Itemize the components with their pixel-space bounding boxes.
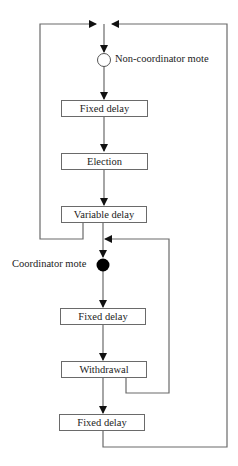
non-coordinator-node-icon bbox=[98, 54, 111, 67]
fixed-delay-3-box: Fixed delay bbox=[59, 414, 145, 431]
loop-final-to-top bbox=[103, 24, 227, 447]
coordinator-label: Coordinator mote bbox=[12, 258, 86, 269]
fixed-delay-1-box: Fixed delay bbox=[61, 100, 148, 117]
election-box: Election bbox=[61, 153, 148, 170]
non-coordinator-label: Non-coordinator mote bbox=[115, 53, 209, 64]
withdrawal-box: Withdrawal bbox=[61, 361, 147, 378]
fixed-delay-2-box: Fixed delay bbox=[60, 308, 146, 325]
flowchart-connectors bbox=[0, 0, 238, 466]
coordinator-node-icon bbox=[97, 259, 110, 272]
variable-delay-box: Variable delay bbox=[61, 206, 147, 223]
